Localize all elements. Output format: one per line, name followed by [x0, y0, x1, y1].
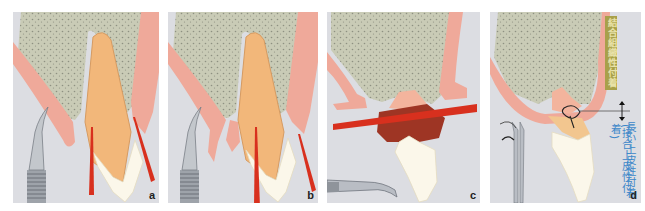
scalpel-icon: [180, 107, 201, 203]
panel-label-d: d: [630, 189, 637, 201]
panel-c-illustration: [327, 12, 480, 203]
panel-c: c: [327, 12, 480, 203]
panel-label-c: c: [470, 189, 476, 201]
panel-a: a: [13, 12, 159, 203]
panel-d: 結合組織性付着 長い上皮性付着 (接合上皮性付着) d: [490, 12, 641, 203]
gingiva-papilla-left: [226, 120, 240, 152]
label-junctional-epithelial-attachment: (接合上皮性付着): [609, 124, 631, 203]
panel-label-a: a: [149, 189, 155, 201]
panel-a-illustration: [13, 12, 159, 203]
panel-b: b: [168, 12, 318, 203]
incision-right: [298, 134, 316, 192]
panel-label-b: b: [307, 189, 314, 201]
forceps-icon: [327, 180, 397, 197]
tooth-crown: [395, 136, 437, 202]
bone: [173, 12, 298, 118]
label-connective-tissue-attachment: 結合組織性付着: [605, 16, 617, 90]
panel-b-illustration: [168, 12, 318, 203]
scalpel-icon: [27, 107, 48, 203]
needle-holder-icon: [500, 122, 524, 203]
tooth-crown: [552, 132, 594, 202]
